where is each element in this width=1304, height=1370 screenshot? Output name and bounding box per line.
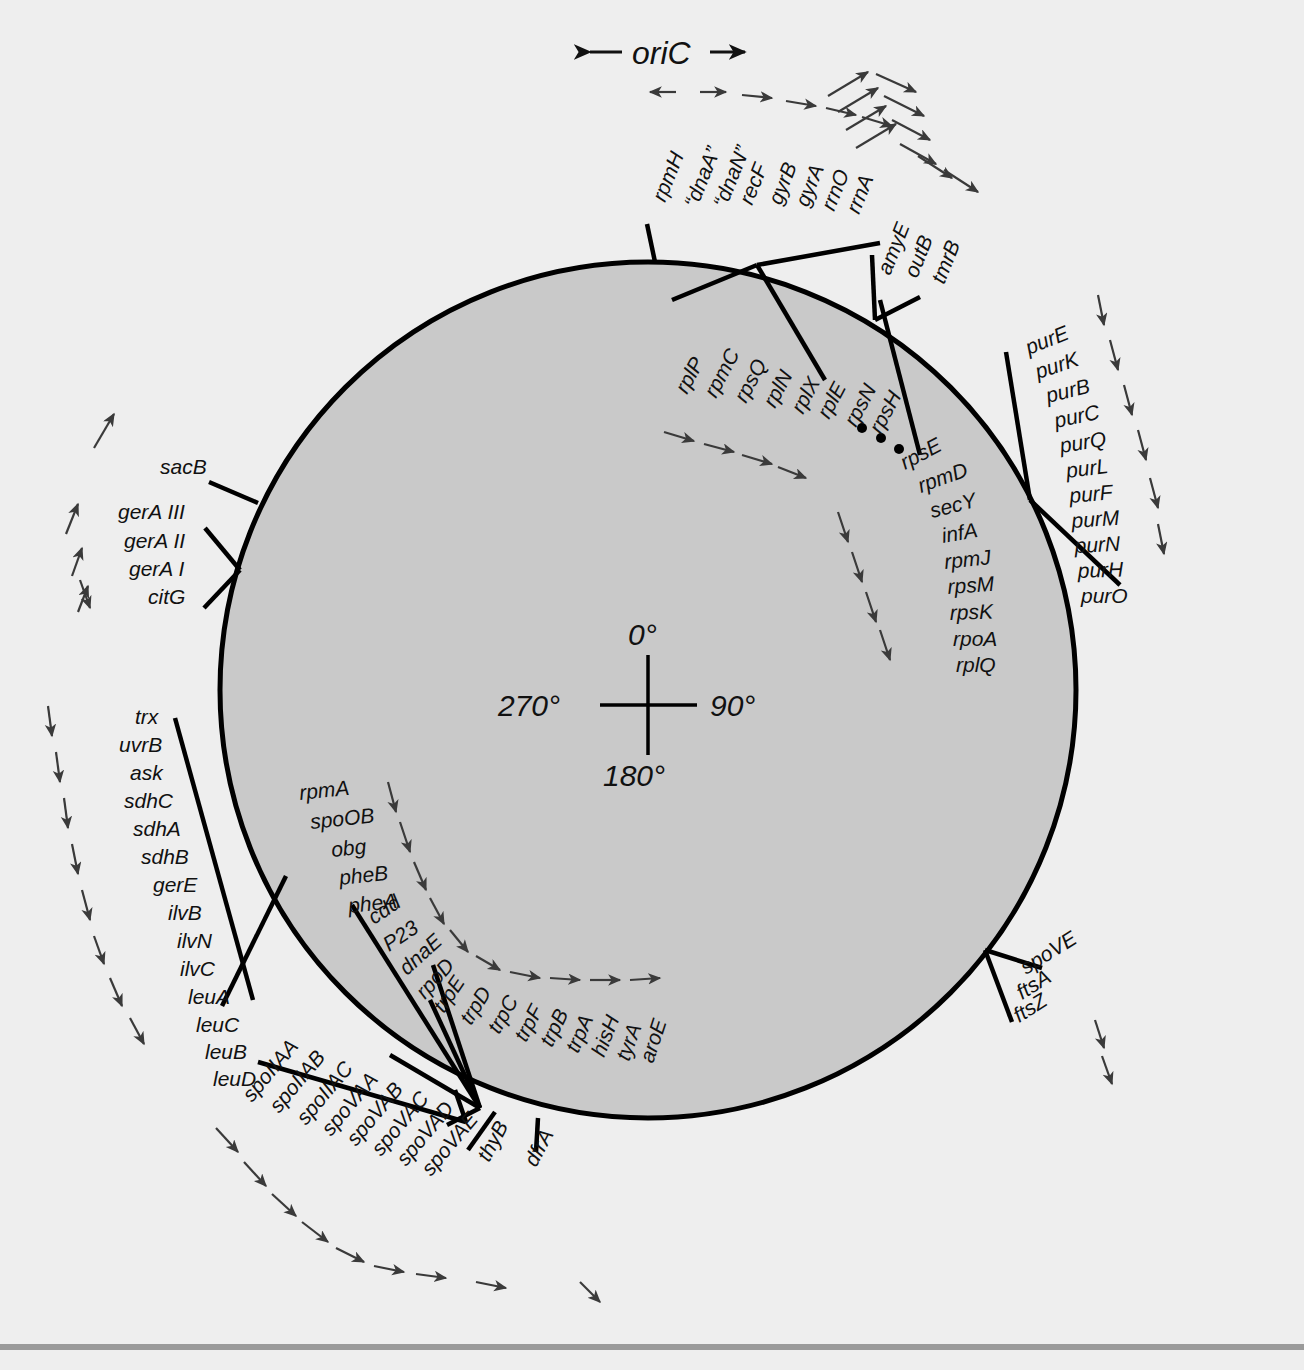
- oric-label: oriC: [632, 35, 692, 71]
- gene-label-obg: obg: [330, 834, 368, 861]
- gene-label-sacb: sacB: [160, 455, 207, 478]
- dir-arrow: [742, 95, 772, 98]
- dir-arrow: [1095, 1020, 1104, 1048]
- gene-label-ftsz: ftsZ: [1009, 988, 1052, 1027]
- gene-label-geraiii: gerA III: [118, 500, 185, 523]
- gene-label-purh: purH: [1076, 557, 1124, 582]
- gene-label-leua: leuA: [188, 985, 230, 1008]
- dir-arrow: [336, 1248, 364, 1262]
- compass-label-180: 180°: [603, 759, 665, 792]
- gene-cluster-sacb-cluster: sacB: [160, 455, 207, 478]
- compass-label-90: 90°: [710, 689, 755, 722]
- compass-label-0: 0°: [628, 618, 657, 651]
- gene-cluster-amye-cluster: amyEoutBtmrB: [872, 218, 964, 286]
- gene-label-spove: spoVE: [1016, 926, 1082, 979]
- dir-arrow: [1124, 385, 1132, 415]
- gene-label-purq: purQ: [1057, 427, 1108, 457]
- gene-label-geraii: gerA II: [124, 529, 185, 552]
- dir-arrow: [846, 106, 886, 130]
- gene-label-leub: leuB: [205, 1040, 247, 1063]
- chromosome-map-canvas: oriC: [0, 0, 1304, 1370]
- gene-label-rpsm: rpsM: [947, 572, 996, 598]
- gene-cluster-fts-cluster: spoVEftsAftsZ: [1009, 926, 1082, 1027]
- dir-arrow: [130, 1018, 144, 1044]
- dir-arrow: [1150, 478, 1158, 508]
- leader-rpmh: [647, 224, 655, 262]
- genetic-map-figure: oriC: [0, 0, 1304, 1370]
- gene-label-leuc: leuC: [196, 1013, 240, 1036]
- gene-label-sdha: sdhA: [133, 817, 181, 840]
- dir-arrow: [72, 548, 82, 576]
- dir-arrow: [302, 1222, 328, 1242]
- dir-arrow: [244, 1162, 266, 1186]
- gene-cluster-oric-cluster: rpmH“dnaA”“dnaN”recFgyrBgyrArrnOrrnA: [647, 141, 877, 216]
- gene-label-dfra: dfrA: [519, 1125, 557, 1170]
- dir-arrow: [216, 1128, 238, 1152]
- oric-heading: oriC: [590, 35, 745, 71]
- gene-label-puro: purO: [1080, 584, 1128, 607]
- gene-label-ask: ask: [130, 761, 164, 784]
- gene-label-purl: purL: [1064, 454, 1110, 482]
- gene-label-ilvn: ilvN: [177, 929, 213, 952]
- dir-arrow: [944, 170, 978, 192]
- gene-cluster-gera-cluster: gerA IIIgerA IIgerA IcitG: [118, 500, 185, 608]
- leader-sacb: [209, 482, 258, 503]
- dir-arrow: [66, 504, 78, 534]
- dir-arrow: [918, 156, 952, 178]
- gene-label-purc: purC: [1051, 400, 1102, 432]
- gene-label-uvrb: uvrB: [119, 733, 162, 756]
- gene-label-ilvb: ilvB: [168, 901, 202, 924]
- dir-arrow: [1158, 524, 1164, 554]
- gene-label-trx: trx: [135, 705, 160, 728]
- dir-arrow: [580, 1282, 600, 1302]
- footer-divider: [0, 1344, 1304, 1350]
- leader-rrn: [757, 243, 880, 265]
- dir-arrow: [876, 74, 916, 92]
- dir-arrow: [1110, 340, 1118, 370]
- compass-label-270: 270°: [497, 689, 560, 722]
- dir-arrow: [1138, 430, 1146, 460]
- gene-label-gere: gerE: [153, 873, 198, 896]
- leader-leud: [222, 876, 286, 1006]
- dir-arrow: [72, 844, 78, 874]
- dir-arrow: [94, 936, 104, 964]
- gene-label-rpoa: rpoA: [953, 627, 997, 650]
- dir-arrow: [786, 101, 816, 106]
- gene-label-purn: purN: [1073, 532, 1121, 557]
- dir-arrow: [1102, 1056, 1112, 1084]
- gene-label-citg: citG: [148, 585, 185, 608]
- dir-arrow: [374, 1266, 404, 1272]
- leader-ftsz: [985, 950, 1012, 1022]
- gene-label-purf: purF: [1067, 480, 1114, 507]
- dir-arrow: [416, 1274, 446, 1278]
- dir-arrow: [476, 1282, 506, 1288]
- gene-label-rplq: rplQ: [956, 653, 996, 676]
- dir-arrow: [1098, 295, 1104, 325]
- gene-label-ilvc: ilvC: [180, 957, 216, 980]
- gene-label-sdhb: sdhB: [141, 845, 189, 868]
- dir-arrow: [56, 752, 60, 782]
- dir-arrow: [838, 88, 878, 112]
- dir-arrow: [856, 124, 896, 148]
- dir-arrow: [828, 72, 868, 96]
- gene-label-sdhc: sdhC: [124, 789, 174, 812]
- dir-arrow: [272, 1194, 296, 1216]
- gene-label-rpsk: rpsK: [949, 599, 994, 624]
- dir-arrow: [82, 890, 90, 920]
- dir-arrow: [94, 414, 114, 448]
- gene-label-purm: purM: [1070, 506, 1121, 532]
- dir-arrow: [900, 144, 936, 164]
- dir-arrow: [48, 706, 52, 736]
- dir-arrow: [892, 120, 930, 140]
- gene-label-rpmj: rpmJ: [943, 545, 992, 573]
- dir-arrow: [884, 96, 924, 116]
- leader-gera3: [205, 528, 240, 570]
- dir-arrow: [110, 978, 122, 1006]
- gene-label-gerai: gerA I: [129, 557, 184, 580]
- dir-arrow: [64, 798, 68, 828]
